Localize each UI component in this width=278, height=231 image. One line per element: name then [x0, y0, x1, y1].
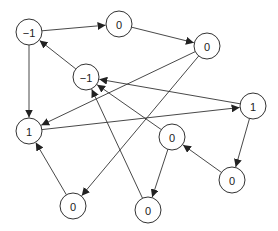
graph-node-A: −1: [16, 19, 42, 45]
node-label: −1: [80, 72, 93, 84]
edge-C-to-E: [41, 52, 195, 126]
graph-node-I: 0: [60, 193, 86, 219]
graph-node-C: 0: [194, 33, 220, 59]
graph-node-E: 1: [16, 118, 42, 144]
edge-F-to-D: [99, 79, 240, 104]
node-label: 0: [145, 205, 151, 217]
edge-H-to-G: [183, 145, 221, 173]
edge-G-to-J: [152, 149, 168, 197]
node-label: 1: [250, 101, 256, 113]
node-label: 0: [204, 41, 210, 53]
graph-node-J: 0: [135, 197, 161, 223]
graph-node-F: 1: [240, 93, 266, 119]
edge-G-to-D: [97, 85, 161, 130]
node-label: −1: [23, 27, 36, 39]
node-label: 0: [70, 201, 76, 213]
nodes-layer: −100−1110000: [16, 11, 266, 223]
edge-B-to-C: [132, 27, 194, 43]
directed-graph: −100−1110000: [0, 0, 278, 231]
graph-node-H: 0: [219, 167, 245, 193]
node-label: 0: [229, 175, 235, 187]
edge-J-to-D: [92, 89, 143, 198]
edge-D-to-A: [40, 40, 76, 69]
node-label: 0: [169, 132, 175, 144]
graph-node-G: 0: [159, 124, 185, 150]
node-label: 1: [26, 126, 32, 138]
graph-node-B: 0: [106, 11, 132, 37]
edge-F-to-H: [236, 119, 250, 168]
node-label: 0: [116, 19, 122, 31]
edge-I-to-E: [36, 143, 67, 195]
edge-A-to-B: [42, 25, 106, 31]
graph-node-D: −1: [73, 64, 99, 90]
